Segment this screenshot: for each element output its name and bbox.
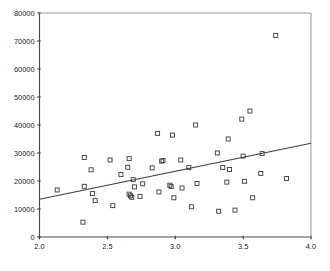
data-point (259, 171, 263, 175)
data-point (169, 185, 173, 189)
x-tick-label: 3.5 (238, 242, 248, 251)
x-tick-label: 3.0 (170, 242, 180, 251)
x-tick-label: 4.0 (306, 242, 316, 251)
data-point (225, 180, 229, 184)
data-point (82, 155, 86, 159)
plot-axes (40, 13, 312, 237)
data-point (274, 33, 278, 37)
y-tick-label: 30000 (14, 149, 35, 158)
data-point (233, 208, 237, 212)
regression-line (40, 143, 312, 199)
data-point (157, 190, 161, 194)
data-point (126, 165, 130, 169)
data-point (138, 194, 142, 198)
data-point (133, 185, 137, 189)
data-point (82, 184, 86, 188)
data-point (248, 109, 252, 113)
y-tick-label: 20000 (14, 177, 35, 186)
data-point (111, 204, 115, 208)
y-tick-label: 80000 (14, 9, 35, 18)
data-point (195, 182, 199, 186)
data-point (251, 196, 255, 200)
data-point (285, 176, 289, 180)
data-point (194, 123, 198, 127)
y-tick-label: 0 (30, 233, 34, 242)
data-point (179, 158, 183, 162)
data-point (55, 188, 59, 192)
data-point (141, 182, 145, 186)
y-axis-tick-labels: 0100002000030000400005000060000700008000… (14, 9, 35, 242)
x-axis-tick-labels: 2.02.53.03.54.0 (34, 242, 316, 251)
data-point (119, 173, 123, 177)
data-point (240, 117, 244, 121)
x-tick-label: 2.5 (102, 242, 112, 251)
data-point (156, 131, 160, 135)
x-tick-label: 2.0 (34, 242, 44, 251)
data-point (215, 151, 219, 155)
data-point (171, 133, 175, 137)
data-point-markers (55, 33, 288, 224)
y-tick-label: 40000 (14, 121, 35, 130)
data-point (93, 199, 97, 203)
scatter-plot-figure: 0100002000030000400005000060000700008000… (0, 0, 330, 271)
y-tick-label: 10000 (14, 205, 35, 214)
data-point (242, 179, 246, 183)
axis-tick-marks (37, 13, 311, 239)
data-point (150, 166, 154, 170)
data-point (89, 168, 93, 172)
data-point (221, 166, 225, 170)
data-point (127, 157, 131, 161)
data-point (90, 192, 94, 196)
data-point (168, 183, 172, 187)
data-point (180, 186, 184, 190)
y-tick-label: 70000 (14, 37, 35, 46)
data-point (190, 205, 194, 209)
data-point (226, 137, 230, 141)
y-tick-label: 50000 (14, 93, 35, 102)
data-point (172, 196, 176, 200)
data-point (228, 168, 232, 172)
y-tick-label: 60000 (14, 65, 35, 74)
data-point (81, 220, 85, 224)
plot-canvas: 0100002000030000400005000060000700008000… (0, 0, 330, 271)
plot-frame (40, 13, 312, 237)
data-point (217, 209, 221, 213)
data-point (108, 158, 112, 162)
